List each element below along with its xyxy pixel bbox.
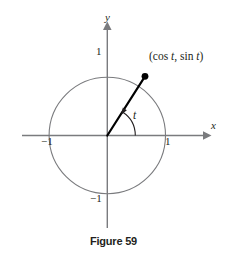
angle-label: t (133, 110, 136, 122)
unit-circle-diagram (0, 0, 227, 256)
point-label-suffix: ) (200, 50, 204, 62)
y-axis-label: y (105, 12, 110, 23)
x-tick-label-one: 1 (165, 136, 171, 147)
x-tick-label-negative-one: −1 (41, 136, 53, 147)
x-axis-label: x (211, 120, 216, 131)
point-label-mid: , sin (174, 50, 196, 62)
point-label-prefix: (cos (149, 50, 171, 62)
y-tick-label-one: 1 (96, 46, 102, 57)
figure-container: x y −1 1 1 −1 (cos t, sin t) t Figure 59 (0, 0, 227, 256)
y-axis (103, 22, 112, 229)
y-tick-label-negative-one: −1 (90, 193, 102, 204)
terminal-radius-line (107, 76, 145, 135)
terminal-point-label: (cos t, sin t) (149, 51, 203, 63)
figure-caption: Figure 59 (0, 235, 227, 247)
terminal-point-marker (142, 73, 149, 80)
